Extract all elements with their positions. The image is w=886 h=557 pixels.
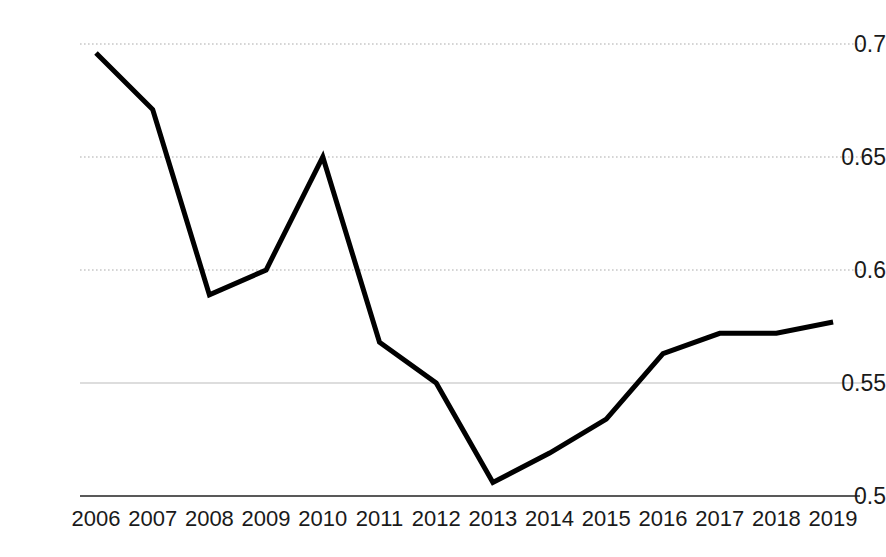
series-polyline (96, 53, 833, 482)
chart-plot-area (0, 0, 886, 557)
line-chart: 0.70.650.60.550.5 2006200720082009201020… (0, 0, 886, 557)
data-series-line (96, 53, 833, 482)
